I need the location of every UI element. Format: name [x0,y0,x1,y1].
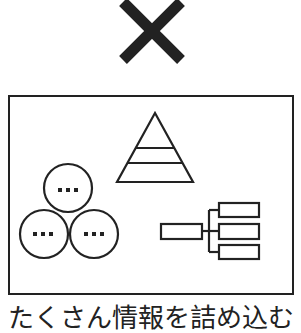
pyramid-icon [117,113,193,182]
tree-diagram-icon [161,203,259,259]
caption: たくさん情報を詰め込む [0,303,301,333]
venn-circles-icon [20,164,118,258]
